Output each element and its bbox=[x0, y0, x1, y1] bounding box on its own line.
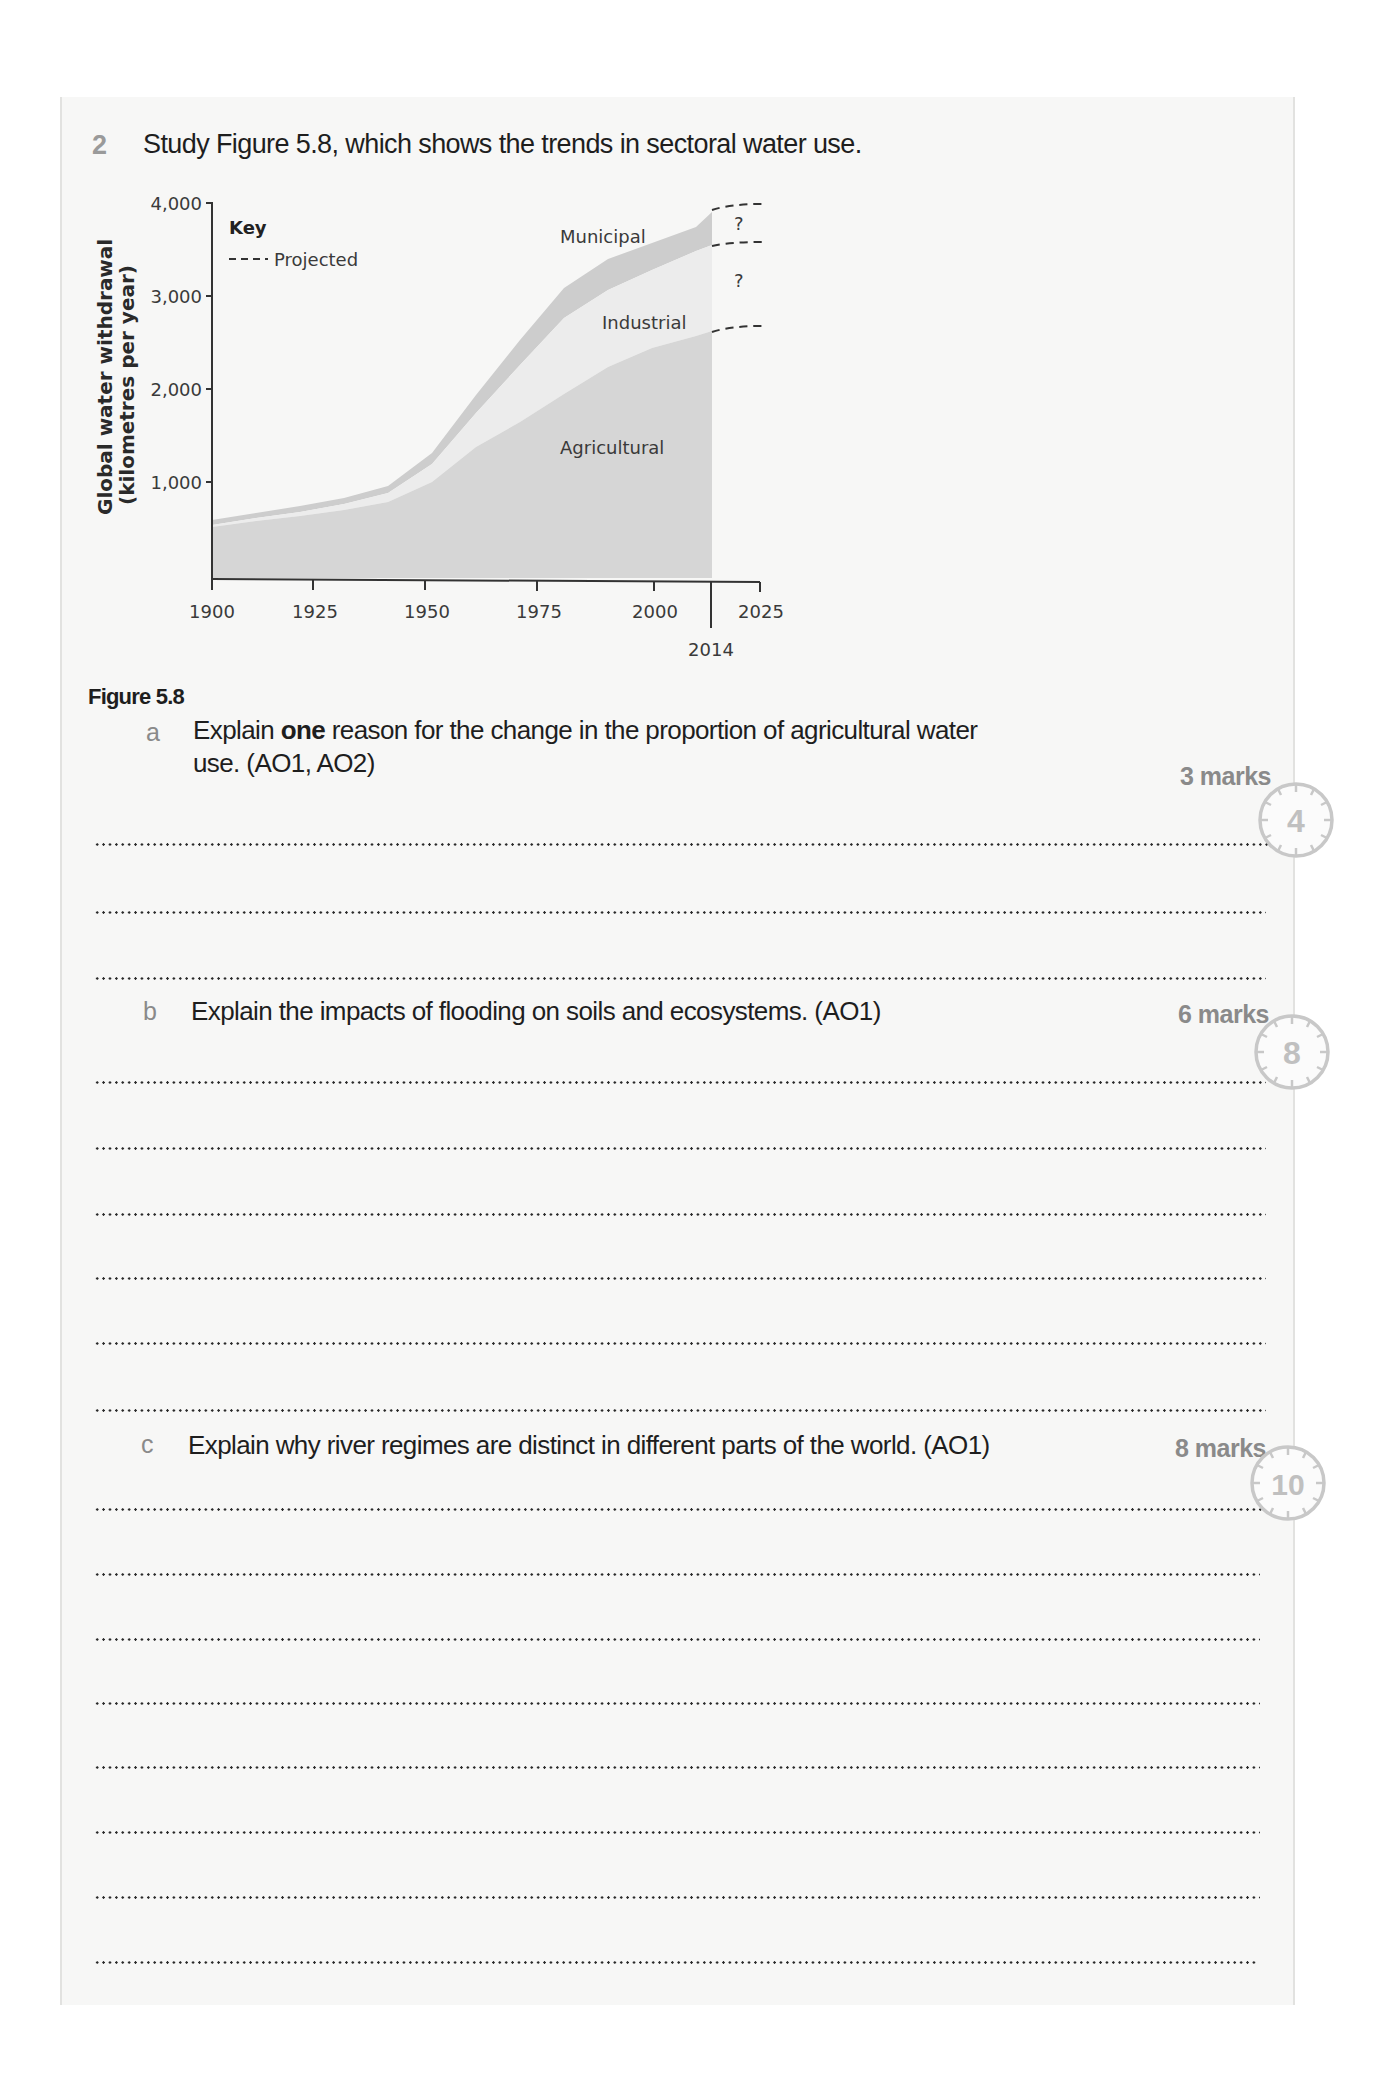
projected-municipal-line bbox=[712, 204, 762, 210]
answer-line-c7[interactable] bbox=[94, 1896, 1260, 1899]
question-number: 2 bbox=[92, 130, 107, 161]
answer-line-b3[interactable] bbox=[94, 1213, 1266, 1216]
timer-clock-icon-c: 10 bbox=[1248, 1443, 1328, 1523]
x-tick-2025: 2025 bbox=[738, 601, 784, 622]
key-title: Key bbox=[229, 217, 267, 238]
x-tick-1900: 1900 bbox=[189, 601, 235, 622]
answer-line-b5[interactable] bbox=[94, 1342, 1266, 1345]
answer-line-c5[interactable] bbox=[94, 1766, 1260, 1769]
answer-line-a1[interactable] bbox=[94, 843, 1270, 846]
projected-agricultural-line bbox=[712, 326, 762, 332]
x-tick-1925: 1925 bbox=[292, 601, 338, 622]
y-tick-3000: 3,000 bbox=[150, 286, 202, 307]
part-c-question: Explain why river regimes are distinct i… bbox=[188, 1429, 990, 1461]
answer-line-c1[interactable] bbox=[94, 1508, 1264, 1511]
label-municipal-unknown: ? bbox=[734, 213, 744, 234]
question-prompt: Study Figure 5.8, which shows the trends… bbox=[143, 129, 862, 160]
answer-line-c3[interactable] bbox=[94, 1638, 1260, 1641]
answer-line-b1[interactable] bbox=[94, 1081, 1266, 1084]
answer-line-a2[interactable] bbox=[94, 911, 1266, 914]
part-b-question: Explain the impacts of flooding on soils… bbox=[191, 995, 881, 1027]
y-axis-label-line1: Global water withdrawal bbox=[93, 239, 117, 515]
part-a-question-line2: use. (AO1, AO2) bbox=[193, 747, 375, 779]
x-tick-1950: 1950 bbox=[404, 601, 450, 622]
timer-clock-icon-b: 8 bbox=[1252, 1012, 1332, 1092]
answer-line-b6[interactable] bbox=[94, 1409, 1266, 1412]
part-b-letter: b bbox=[143, 997, 157, 1026]
emphasis-one: one bbox=[281, 715, 325, 745]
y-tick-2000: 2,000 bbox=[150, 379, 202, 400]
answer-line-c6[interactable] bbox=[94, 1831, 1260, 1834]
y-tick-1000: 1,000 bbox=[150, 472, 202, 493]
x-axis bbox=[212, 579, 760, 582]
x-marker-2014: 2014 bbox=[688, 639, 734, 660]
answer-line-b2[interactable] bbox=[94, 1147, 1266, 1150]
answer-line-a3[interactable] bbox=[94, 977, 1266, 980]
answer-line-c4[interactable] bbox=[94, 1702, 1260, 1705]
label-municipal: Municipal bbox=[560, 226, 646, 247]
x-tick-1975: 1975 bbox=[516, 601, 562, 622]
label-agricultural: Agricultural bbox=[560, 437, 664, 458]
label-industrial: Industrial bbox=[602, 312, 686, 333]
timer-minutes-b: 8 bbox=[1283, 1035, 1301, 1071]
chart-key: Key Projected bbox=[229, 217, 358, 270]
y-axis-label-line2: (kilometres per year) bbox=[115, 265, 139, 505]
answer-line-c8[interactable] bbox=[94, 1961, 1256, 1964]
water-use-chart: Global water withdrawal (kilometres per … bbox=[80, 180, 800, 680]
y-tick-4000: 4,000 bbox=[150, 193, 202, 214]
timer-clock-icon-a: 4 bbox=[1256, 780, 1336, 860]
answer-line-b4[interactable] bbox=[94, 1277, 1266, 1280]
part-a-letter: a bbox=[146, 718, 160, 747]
part-a-question: Explain one reason for the change in the… bbox=[193, 714, 977, 746]
projected-industrial-line bbox=[712, 242, 762, 246]
part-c-letter: c bbox=[141, 1430, 154, 1459]
figure-caption: Figure 5.8 bbox=[88, 684, 184, 710]
x-tick-2000: 2000 bbox=[632, 601, 678, 622]
answer-line-c2[interactable] bbox=[94, 1573, 1260, 1576]
timer-minutes-c: 10 bbox=[1271, 1468, 1304, 1501]
timer-minutes-a: 4 bbox=[1287, 803, 1305, 839]
key-projected-label: Projected bbox=[274, 249, 358, 270]
label-industrial-unknown: ? bbox=[734, 270, 744, 291]
